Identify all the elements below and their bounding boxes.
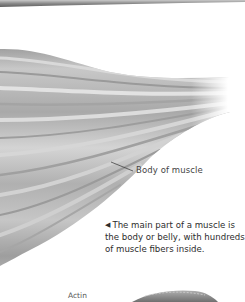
page: Body of muscle ◀The main part of a muscl… xyxy=(0,0,245,302)
actin-filament-illustration xyxy=(0,0,245,302)
